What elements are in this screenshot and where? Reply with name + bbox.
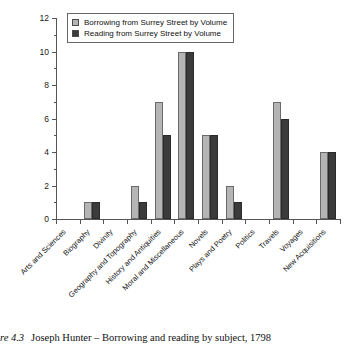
y-tick-label: 4 (44, 148, 49, 157)
figure-caption-text: Joseph Hunter – Borrowing and reading by… (31, 332, 271, 343)
bar-reading[interactable] (186, 52, 194, 220)
bar-borrowing[interactable] (202, 135, 210, 219)
legend-swatch-borrowing-icon (72, 19, 79, 26)
bar-group[interactable] (60, 18, 76, 219)
bar-group[interactable] (107, 18, 123, 219)
y-tick-label: 6 (44, 114, 49, 123)
bar-group[interactable] (226, 18, 242, 219)
plot-area (56, 18, 340, 219)
x-axis-label: Arts and Sciences (19, 228, 67, 276)
bar-reading[interactable] (163, 135, 171, 219)
bar-borrowing[interactable] (155, 102, 163, 219)
bar-group[interactable] (155, 18, 171, 219)
x-tick (103, 220, 104, 224)
bar-reading[interactable] (139, 202, 147, 219)
x-tick (316, 220, 317, 224)
y-tick-label: 8 (44, 81, 49, 90)
x-tick (80, 220, 81, 224)
legend-label-reading: Reading from Surrey Street by Volume (84, 29, 221, 38)
x-tick (269, 220, 270, 224)
bar-borrowing[interactable] (131, 186, 139, 220)
bar-reading[interactable] (92, 202, 100, 219)
bar-borrowing[interactable] (226, 186, 234, 220)
bar-group[interactable] (202, 18, 218, 219)
legend-item-borrowing: Borrowing from Surrey Street by Volume (72, 17, 227, 28)
bar-borrowing[interactable] (273, 102, 281, 219)
x-tick (198, 220, 199, 224)
x-tick (174, 220, 175, 224)
x-tick (245, 220, 246, 224)
x-tick (151, 220, 152, 224)
x-tick (340, 220, 341, 224)
x-axis-label: Politics (234, 228, 256, 250)
bar-reading[interactable] (234, 202, 242, 219)
bar-borrowing[interactable] (320, 152, 328, 219)
y-axis: 024681012 (0, 0, 57, 220)
figure-number: re 4.3 (0, 332, 24, 343)
bar-group[interactable] (273, 18, 289, 219)
y-tick-label: 0 (44, 215, 49, 224)
bar-group[interactable] (249, 18, 265, 219)
bar-group[interactable] (84, 18, 100, 219)
legend-label-borrowing: Borrowing from Surrey Street by Volume (84, 18, 227, 27)
chart-legend: Borrowing from Surrey Street by Volume R… (67, 13, 234, 43)
x-tick (127, 220, 128, 224)
bar-borrowing[interactable] (178, 52, 186, 220)
bar-reading[interactable] (281, 119, 289, 220)
legend-swatch-reading-icon (72, 30, 79, 37)
x-tick (56, 220, 57, 224)
legend-item-reading: Reading from Surrey Street by Volume (72, 28, 227, 39)
figure-caption: re 4.3Joseph Hunter – Borrowing and read… (0, 331, 348, 344)
figure-container: 024681012 Borrowing from Surrey Street b… (0, 0, 348, 359)
y-tick-label: 12 (40, 14, 49, 23)
bar-group[interactable] (178, 18, 194, 219)
x-tick (293, 220, 294, 224)
y-tick-label: 10 (40, 47, 49, 56)
bar-group[interactable] (320, 18, 336, 219)
bar-group[interactable] (297, 18, 313, 219)
bar-borrowing[interactable] (84, 202, 92, 219)
bar-group[interactable] (131, 18, 147, 219)
bar-reading[interactable] (210, 135, 218, 219)
y-tick-label: 2 (44, 181, 49, 190)
x-tick (222, 220, 223, 224)
bar-reading[interactable] (328, 152, 336, 219)
